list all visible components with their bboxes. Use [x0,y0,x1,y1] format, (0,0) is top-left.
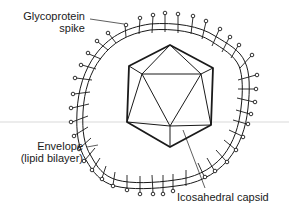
spike [138,176,142,196]
spike [231,43,241,58]
spike [90,158,100,172]
spike [95,39,108,50]
spike [100,166,106,181]
spike [111,172,115,188]
spike [236,110,253,116]
spike [69,104,89,110]
spike [224,140,238,152]
glycoprotein-spikes [69,11,259,196]
spike [207,158,217,173]
spike [191,14,195,34]
spike [163,11,167,32]
envelope-leader [87,145,98,147]
spike [125,175,129,192]
spike [233,120,250,126]
spike [71,92,90,96]
glycoprotein-leader [90,19,124,24]
spike [237,98,257,104]
spike [138,16,142,34]
spike [171,174,175,193]
spike [69,116,88,124]
spike [238,87,258,91]
virus-diagram: Glycoprotein spike Envelope (lipid bilay… [0,0,289,210]
spike [202,19,208,39]
spike [151,175,155,196]
glycoprotein-spike-label: Glycoprotein spike [23,10,85,34]
icosahedral-capsid [127,45,213,147]
spike [161,175,165,196]
spike [72,127,88,138]
envelope-label: Envelope (lipid bilayer) [21,140,83,164]
icosahedral-capsid-label: Icosahedral capsid [177,191,269,203]
